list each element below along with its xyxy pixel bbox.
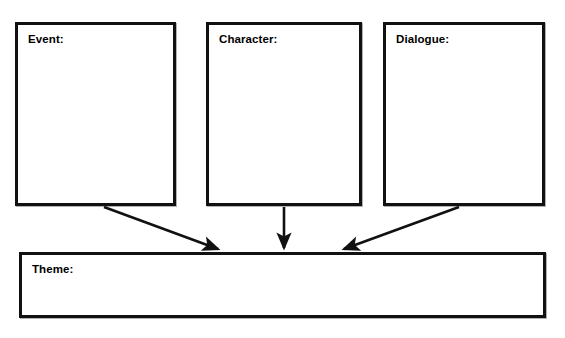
event-box[interactable]: Event: bbox=[15, 22, 176, 206]
event-box-label: Event: bbox=[28, 32, 64, 46]
character-box[interactable]: Character: bbox=[206, 22, 362, 206]
theme-box-label: Theme: bbox=[32, 262, 74, 276]
character-box-label: Character: bbox=[219, 32, 278, 46]
dialogue-box-label: Dialogue: bbox=[396, 32, 449, 46]
dialogue-to-theme-arrow bbox=[344, 207, 459, 249]
theme-box[interactable]: Theme: bbox=[19, 252, 546, 318]
dialogue-box[interactable]: Dialogue: bbox=[383, 22, 545, 206]
event-to-theme-arrow bbox=[104, 207, 218, 249]
graphic-organizer: Event: Character: Dialogue: Theme: bbox=[0, 0, 565, 338]
